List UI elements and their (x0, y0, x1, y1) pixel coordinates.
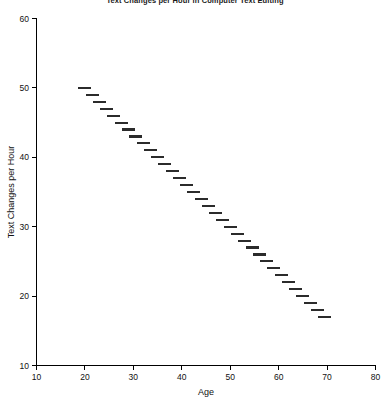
y-tick-label: 30 (20, 222, 30, 232)
y-tick-label: 10 (20, 361, 30, 371)
x-axis: 1020304050607080 (32, 366, 381, 382)
x-tick-label: 40 (177, 372, 187, 382)
y-tick-label: 20 (20, 291, 30, 301)
x-tick-label: 30 (129, 372, 139, 382)
x-tick-label: 60 (274, 372, 284, 382)
chart-plot-area: 102030405060 1020304050607080 Text Chang… (0, 0, 390, 402)
chart-container: Text Changes per Hour in Computer Text E… (0, 0, 390, 402)
y-tick-label: 60 (20, 14, 30, 24)
x-tick-label: 50 (225, 372, 235, 382)
x-tick-label: 80 (371, 372, 381, 382)
y-axis: 102030405060 (20, 14, 37, 371)
x-axis-title: Age (198, 387, 214, 397)
x-tick-label: 70 (322, 372, 332, 382)
y-axis-title: Text Changes per Hour (6, 146, 16, 239)
x-tick-label: 20 (80, 372, 90, 382)
x-tick-label: 10 (32, 372, 42, 382)
y-tick-label: 50 (20, 83, 30, 93)
data-series-marks (78, 88, 331, 317)
y-tick-label: 40 (20, 152, 30, 162)
